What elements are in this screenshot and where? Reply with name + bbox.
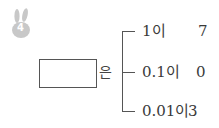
bracket-tick xyxy=(122,72,135,73)
place-label: 0.1이 xyxy=(142,63,180,81)
place-value: 7 xyxy=(198,22,208,40)
place-value: 3 xyxy=(188,102,198,120)
bracket-tick xyxy=(122,31,135,32)
place-label: 0.01이 xyxy=(142,102,189,120)
problem-number: 4 xyxy=(17,22,24,33)
bracket-tick xyxy=(122,111,135,112)
answer-box[interactable] xyxy=(39,59,97,88)
place-value: 0 xyxy=(196,63,206,81)
bunny-icon: 4 xyxy=(8,8,36,38)
particle-text: 은 xyxy=(99,62,112,82)
place-label: 1이 xyxy=(142,22,166,40)
